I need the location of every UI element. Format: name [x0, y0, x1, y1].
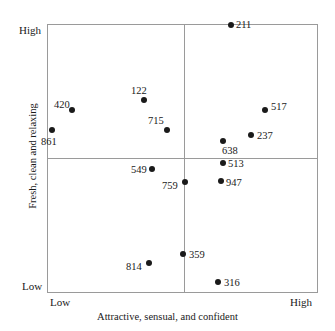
data-point-label: 638: [222, 145, 238, 156]
data-point-label: 759: [162, 180, 178, 191]
data-point-label: 316: [224, 277, 240, 288]
data-point: [49, 127, 55, 133]
data-point: [146, 260, 152, 266]
data-point: [164, 127, 170, 133]
data-point-label: 947: [226, 177, 242, 188]
scatter-chart: High Low Low High Attractive, sensual, a…: [0, 0, 335, 331]
quadrant-divider-horizontal: [47, 158, 318, 159]
data-point-label: 861: [41, 136, 57, 147]
x-axis-title: Attractive, sensual, and confident: [0, 311, 335, 323]
data-point-label: 715: [148, 115, 164, 126]
data-point: [262, 107, 268, 113]
data-point-label: 513: [228, 158, 244, 169]
data-point-label: 359: [189, 249, 205, 260]
data-point: [220, 160, 226, 166]
data-point: [220, 138, 226, 144]
data-point-label: 420: [54, 99, 70, 110]
data-point-label: 549: [131, 164, 147, 175]
data-point-label: 122: [131, 85, 147, 96]
data-point: [141, 97, 147, 103]
x-axis-tick-low: Low: [50, 296, 70, 308]
data-point-label: 517: [271, 101, 287, 112]
data-point-label: 237: [257, 130, 273, 141]
data-point-label: 814: [126, 261, 142, 272]
data-point: [215, 279, 221, 285]
y-axis-tick-low: Low: [22, 280, 42, 292]
data-point: [228, 22, 234, 28]
data-point: [180, 251, 186, 257]
x-axis-tick-high: High: [290, 296, 312, 308]
data-point: [182, 179, 188, 185]
data-point: [69, 107, 75, 113]
y-axis-title: Fresh, clean and relaxing: [27, 61, 39, 251]
y-axis-tick-high: High: [19, 24, 41, 36]
data-point-label: 211: [236, 19, 251, 30]
data-point: [218, 178, 224, 184]
data-point: [248, 132, 254, 138]
data-point: [149, 166, 155, 172]
